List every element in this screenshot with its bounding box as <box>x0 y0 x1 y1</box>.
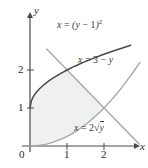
curve-label-line: x = 3 − y <box>78 54 113 65</box>
shaded-region-group <box>30 70 104 146</box>
y-axis-arrowhead <box>27 12 33 18</box>
curve-label-parabola: x = (y − 1)2 <box>57 18 102 30</box>
y-tick-label-2: 2 <box>18 63 24 75</box>
shaded-region <box>30 70 104 146</box>
x-axis-label: x <box>140 140 145 152</box>
y-axis-label: y <box>34 4 39 16</box>
origin-label: 0 <box>19 148 25 160</box>
x-tick-label-1: 1 <box>64 148 70 160</box>
curve-label-sqrt: x = 2√y <box>74 122 104 133</box>
graph-figure: y x 0 1 2 1 2 x = (y − 1)2 x = 3 − y x =… <box>0 0 148 168</box>
y-tick-label-1: 1 <box>18 101 24 113</box>
x-tick-label-2: 2 <box>101 148 107 160</box>
